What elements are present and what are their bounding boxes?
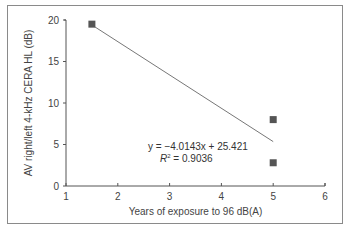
x-tick-label: 1 <box>63 191 69 202</box>
axis-ticks: 05101520123456 <box>48 15 328 203</box>
y-tick-label: 15 <box>48 56 60 67</box>
data-point-square <box>270 159 277 166</box>
data-point-square <box>270 116 277 123</box>
x-axis-label: Years of exposure to 96 dB(A) <box>129 206 263 217</box>
trendline <box>92 25 273 142</box>
y-tick-label: 0 <box>53 181 59 192</box>
regression-line <box>92 25 273 142</box>
r-squared-label: R2 = 0.9036 <box>160 153 213 164</box>
x-tick-label: 5 <box>270 191 276 202</box>
data-point-square <box>88 21 95 28</box>
scatter-chart: 05101520123456 AV right/left 4-kHz CERA … <box>0 0 351 229</box>
r-squared-symbol: R <box>160 153 167 164</box>
x-tick-label: 3 <box>167 191 173 202</box>
y-axis-label: AV right/left 4-kHz CERA HL (dB) <box>23 30 34 177</box>
x-tick-label: 6 <box>322 191 328 202</box>
y-tick-label: 10 <box>48 98 60 109</box>
x-tick-label: 2 <box>115 191 121 202</box>
r-squared-value: = 0.9036 <box>171 153 213 164</box>
regression-equation: y = −4.0143x + 25.421 <box>148 141 248 152</box>
x-tick-label: 4 <box>219 191 225 202</box>
y-tick-label: 20 <box>48 15 60 26</box>
y-tick-label: 5 <box>53 139 59 150</box>
